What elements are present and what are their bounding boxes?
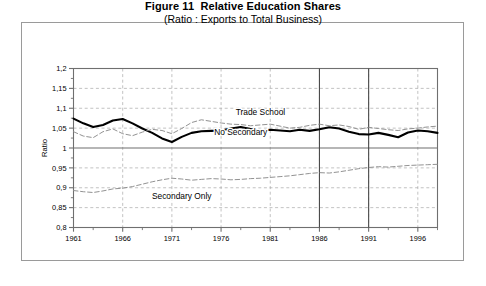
x-tick-label: 1961 — [65, 234, 81, 243]
axes-layer: 0,80,850,90,9511,051,11,151,2 1961196619… — [40, 64, 438, 243]
x-tick-label: 1991 — [360, 234, 376, 243]
y-tick-label: 0,85 — [52, 203, 66, 212]
y-axis-tick-labels: 0,80,850,90,9511,051,11,151,2 — [52, 64, 66, 232]
y-tick-label: 1,15 — [52, 84, 66, 93]
x-tick-label: 1966 — [114, 234, 130, 243]
y-axis-title: Ratio — [40, 139, 49, 157]
x-tick-label: 1971 — [164, 234, 180, 243]
series-label: No Secondary — [214, 127, 268, 137]
x-tick-label: 1981 — [262, 234, 278, 243]
y-tick-label: 0,8 — [56, 223, 66, 232]
x-axis-tick-labels: 19611966197119761981198619911996 — [65, 234, 426, 243]
x-tick-label: 1986 — [311, 234, 327, 243]
x-tick-label: 1976 — [213, 234, 229, 243]
y-tick-label: 1,1 — [56, 104, 66, 113]
x-tick-label: 1996 — [410, 234, 426, 243]
series-label: Trade School — [236, 107, 286, 117]
chart-plot: 0,80,850,90,9511,051,11,151,2 1961196619… — [0, 0, 486, 286]
figure-container: Figure 11 Relative Education Shares (Rat… — [0, 0, 486, 286]
series-label: Secondary Only — [152, 191, 212, 201]
series-line — [74, 164, 438, 192]
y-tick-label: 1 — [62, 144, 66, 153]
y-axis-ticks — [69, 69, 74, 228]
y-tick-label: 1,05 — [52, 124, 66, 133]
y-tick-label: 0,95 — [52, 164, 66, 173]
reference-lines — [74, 69, 438, 228]
y-tick-label: 1,2 — [56, 64, 66, 73]
x-axis-ticks — [74, 228, 438, 232]
y-tick-label: 0,9 — [56, 183, 66, 192]
